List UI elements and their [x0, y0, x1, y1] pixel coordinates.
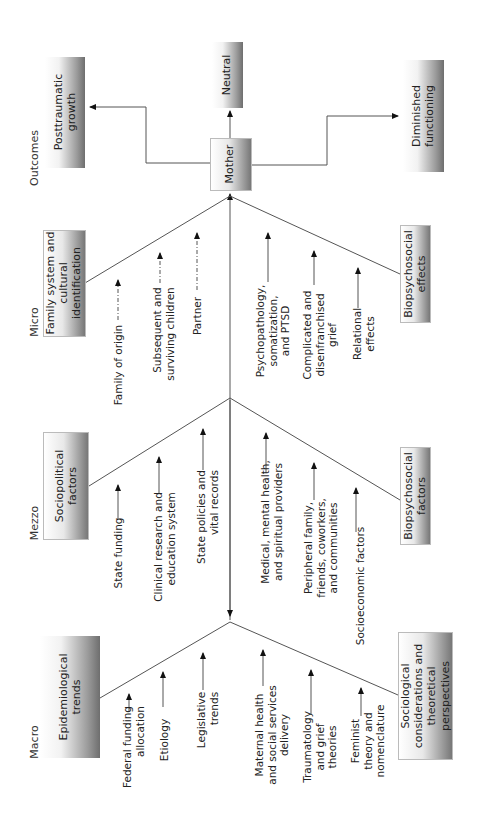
- category-label-sociological: Sociological considerations and theoreti…: [399, 644, 452, 749]
- level-label-outcomes: Outcomes: [28, 130, 41, 186]
- mother-label: Mother: [223, 145, 236, 184]
- micro-item-complicated-grief: Complicated and disenfranchised grief: [301, 290, 339, 379]
- outcome-label-posttraumatic-growth: Posttraumatic growth: [52, 74, 78, 150]
- mezzo-item-socioeconomic: Socioeconomic factors: [354, 527, 367, 645]
- micro-item-partner: Partner: [191, 297, 204, 335]
- mezzo-item-clinical-research: Clinical research and education system: [152, 492, 177, 602]
- mezzo-item-peripheral-family: Peripheral family, friends, coworkers, a…: [302, 498, 340, 598]
- mezzo-item-state-funding: State funding: [112, 517, 125, 588]
- micro-item-family-of-origin: Family of origin: [112, 325, 125, 405]
- category-label-sociopolitical: Sociopolitical factors: [53, 450, 79, 523]
- mezzo-item-medical-providers: Medical, mental health, and spiritual pr…: [259, 460, 284, 584]
- level-label-mezzo: Mezzo: [28, 506, 41, 541]
- category-label-biopsychosocial-effects: Biopsychosocial effects: [402, 230, 428, 318]
- micro-item-psychopathology: Psychopathology, somatization, and PTSD: [254, 285, 292, 378]
- mezzo-item-state-policies: State policies and vital records: [195, 470, 220, 564]
- outcome-label-diminished-functioning: Diminished functioning: [410, 85, 436, 147]
- macro-item-legislative: Legislative trends: [195, 692, 220, 748]
- category-label-family-system: Family system and cultural identificatio…: [44, 232, 84, 335]
- macro-item-traumatology: Traumatology and grief theories: [301, 711, 339, 783]
- micro-item-subsequent-children: Subsequent and surviving children: [151, 287, 176, 381]
- macro-item-federal-funding: Federal funding allocation: [121, 706, 146, 788]
- level-label-micro: Micro: [28, 307, 41, 337]
- category-label-biopsychosocial-factors: Biopsychosocial factors: [402, 452, 428, 540]
- macro-item-maternal-health: Maternal health and social services deli…: [253, 685, 291, 784]
- category-label-epidemiological: Epidemiological trends: [57, 654, 83, 741]
- outcome-label-neutral: Neutral: [220, 55, 233, 96]
- micro-item-relational-effects: Relational effects: [351, 308, 376, 360]
- macro-item-feminist-theory: Feminist theory and nomenclature: [349, 705, 387, 778]
- macro-item-etiology: Etiology: [158, 719, 171, 761]
